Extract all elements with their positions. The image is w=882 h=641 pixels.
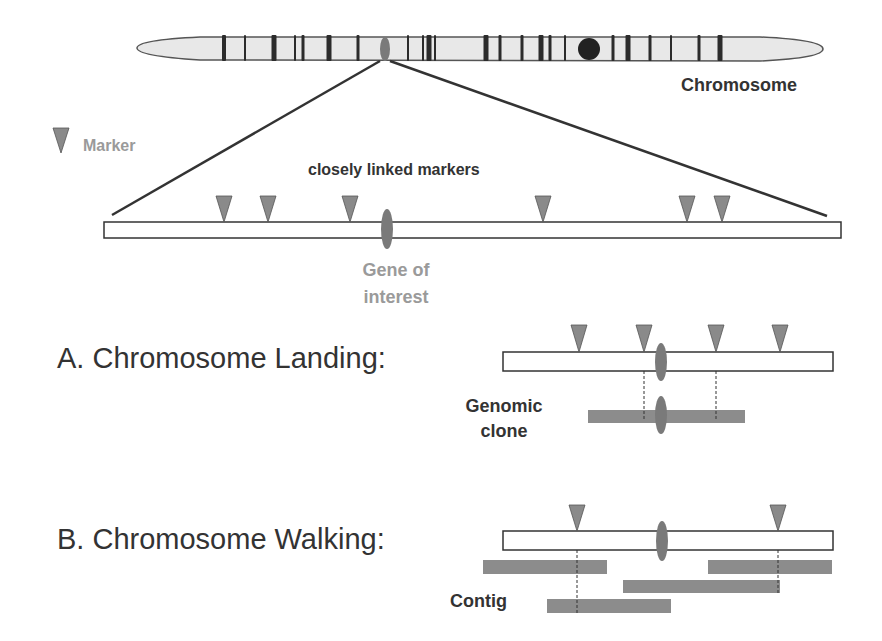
gene-of-interest-locus	[381, 209, 393, 249]
chromosome-band	[244, 35, 246, 61]
section-b-title: B. Chromosome Walking:	[57, 523, 385, 555]
gene-locus-on-chromosome	[380, 37, 390, 61]
chromosome-band	[626, 35, 631, 61]
chromosome-band	[357, 35, 360, 61]
chromosome-band	[698, 35, 701, 61]
gene-locus	[655, 343, 667, 381]
chromosome-band	[302, 35, 305, 61]
chromosome-band	[612, 35, 615, 61]
contig-clone-bar	[483, 560, 607, 574]
zoom-line	[112, 61, 380, 215]
chromosome-band	[549, 35, 552, 61]
chromosome-band	[427, 35, 432, 61]
marker-triangle-icon	[535, 196, 551, 222]
clone-gene-locus	[655, 396, 667, 434]
marker-triangle-icon	[571, 325, 587, 352]
chromosome-band	[434, 35, 436, 61]
chromosome-label: Chromosome	[681, 75, 797, 95]
marker-triangle-icon	[770, 505, 786, 531]
chromosome-band	[521, 35, 524, 61]
gene-of-interest-label-line2: interest	[363, 287, 428, 307]
marker-triangle-icon	[569, 505, 585, 531]
gene-of-interest-label-line1: Gene of	[362, 260, 430, 280]
contig-clone-bar	[708, 560, 832, 574]
chromosome-band	[422, 35, 424, 61]
region-bar	[104, 222, 841, 238]
contig-clone-bar	[547, 599, 671, 613]
marker-legend-label: Marker	[83, 137, 135, 154]
centromere	[578, 38, 600, 60]
marker-triangle-icon	[772, 325, 788, 352]
chromosome-band	[649, 35, 652, 61]
section-a-title: A. Chromosome Landing:	[57, 342, 386, 374]
chromosome-walking-figure	[483, 505, 833, 613]
contig-label: Contig	[450, 591, 507, 611]
chromosome-band	[222, 35, 226, 61]
gene-locus	[656, 521, 668, 561]
marker-triangle-icon	[708, 325, 724, 352]
genomic-clone-label-line1: Genomic	[465, 396, 542, 416]
marker-legend: Marker	[53, 128, 135, 154]
closely-linked-markers-label: closely linked markers	[308, 161, 480, 178]
chromosome-band	[407, 35, 409, 61]
genomic-clone-label-line2: clone	[480, 421, 527, 441]
chromosome-band	[272, 35, 277, 61]
chromosome-landing-figure	[503, 325, 833, 434]
marker-triangle-icon	[53, 128, 69, 153]
marker-triangle-icon	[216, 196, 232, 222]
chromosome-band	[327, 35, 332, 61]
chromosome	[137, 35, 823, 61]
marker-triangle-icon	[714, 196, 730, 222]
chromosome-band	[539, 35, 544, 61]
chromosome-landing-diagram: Chromosome Marker closely linked markers…	[0, 0, 882, 641]
contig-clone-bar	[623, 580, 780, 593]
marker-triangle-icon	[636, 325, 652, 352]
chromosome-band	[564, 35, 566, 61]
marker-triangle-icon	[260, 196, 276, 222]
chromosome-band	[499, 35, 502, 61]
chromosome-band	[294, 35, 296, 61]
chromosome-band	[670, 35, 672, 61]
marker-triangle-icon	[342, 196, 358, 222]
region-map	[104, 196, 841, 249]
chromosome-band	[484, 35, 489, 61]
landing-bar	[503, 352, 833, 371]
walking-bar	[503, 531, 833, 550]
marker-triangle-icon	[679, 196, 695, 222]
chromosome-band	[718, 35, 723, 61]
